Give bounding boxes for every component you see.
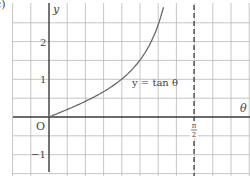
tan-graph: c) y θ O 2 1 −1 y = tan θ π 2 — [0, 0, 250, 176]
y-tick-label-1: 1 — [40, 74, 46, 85]
y-axis-label: y — [52, 3, 60, 16]
x-axis-label: θ — [240, 102, 247, 115]
curve-label: y = tan θ — [131, 77, 178, 88]
grid — [13, 3, 250, 176]
y-tick-label-neg1: −1 — [31, 149, 46, 160]
pi-over-2-denominator: 2 — [192, 131, 196, 139]
part-label: c) — [0, 0, 5, 11]
pi-over-2-numerator: π — [192, 122, 197, 130]
tan-curve — [49, 7, 164, 117]
y-tick-label-2: 2 — [40, 37, 46, 48]
origin-label: O — [36, 120, 45, 133]
